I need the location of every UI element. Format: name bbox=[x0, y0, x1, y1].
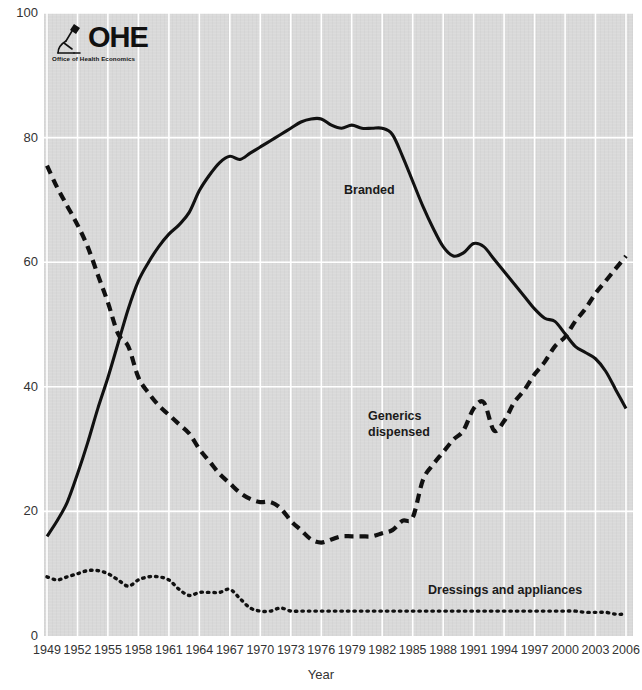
x-axis-tick-label: 2006 bbox=[612, 644, 640, 657]
x-axis-tick-label: 1964 bbox=[185, 644, 213, 657]
x-axis-tick-label: 1952 bbox=[64, 644, 92, 657]
series-label-generics-line1: Generics bbox=[368, 409, 422, 425]
x-axis-tick-label: 1994 bbox=[490, 644, 518, 657]
series-label-branded: Branded bbox=[344, 183, 395, 199]
x-axis-tick-label: 1973 bbox=[277, 644, 305, 657]
x-axis-title: Year bbox=[0, 667, 642, 682]
series-label-generics-line2: dispensed bbox=[368, 425, 430, 441]
x-axis-tick-label: 1955 bbox=[94, 644, 122, 657]
x-axis-tick-label: 1958 bbox=[125, 644, 153, 657]
x-axis-tick-label: 1991 bbox=[460, 644, 488, 657]
x-axis-tick-label: 1961 bbox=[155, 644, 183, 657]
x-axis-tick-label: 1982 bbox=[368, 644, 396, 657]
series-label-dressings: Dressings and appliances bbox=[428, 583, 582, 599]
x-axis-tick-label: 1976 bbox=[307, 644, 335, 657]
x-axis-tick-label: 1970 bbox=[246, 644, 274, 657]
chart-container: OHE Office of Health Economics 020406080… bbox=[0, 0, 642, 690]
x-axis-tick-label: 2003 bbox=[582, 644, 610, 657]
x-axis-tick-label: 1985 bbox=[399, 644, 427, 657]
x-axis-tick-label: 1997 bbox=[521, 644, 549, 657]
x-axis-tick-label: 1988 bbox=[429, 644, 457, 657]
x-axis-tick-label: 1967 bbox=[216, 644, 244, 657]
x-axis-tick-label: 2000 bbox=[551, 644, 579, 657]
x-axis-tick-label: 1949 bbox=[33, 644, 61, 657]
x-axis-tick-label: 1979 bbox=[338, 644, 366, 657]
